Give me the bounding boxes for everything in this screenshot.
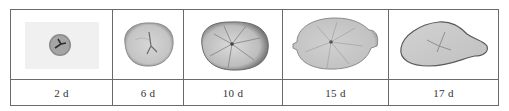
panel-label-2d: 2 d: [11, 80, 113, 105]
panel-label-10d: 10 d: [184, 80, 283, 105]
panel-image-2d: [11, 10, 113, 80]
panel-label-17d: 17 d: [389, 80, 498, 105]
otolith-15d-image: [283, 10, 389, 80]
panel-image-17d: [389, 10, 498, 80]
panel-image-6d: [113, 10, 184, 80]
panel-label-6d: 6 d: [113, 80, 184, 105]
panel-image-10d: [184, 10, 283, 80]
panel-label-15d: 15 d: [283, 80, 389, 105]
otolith-17d-image: [389, 10, 498, 80]
otolith-2d-image: [11, 10, 113, 80]
figure-table: 2 d 6 d 10 d 15 d 17 d: [10, 9, 499, 106]
panel-image-15d: [283, 10, 389, 80]
otolith-10d-image: [184, 10, 283, 80]
otolith-6d-image: [113, 10, 184, 80]
